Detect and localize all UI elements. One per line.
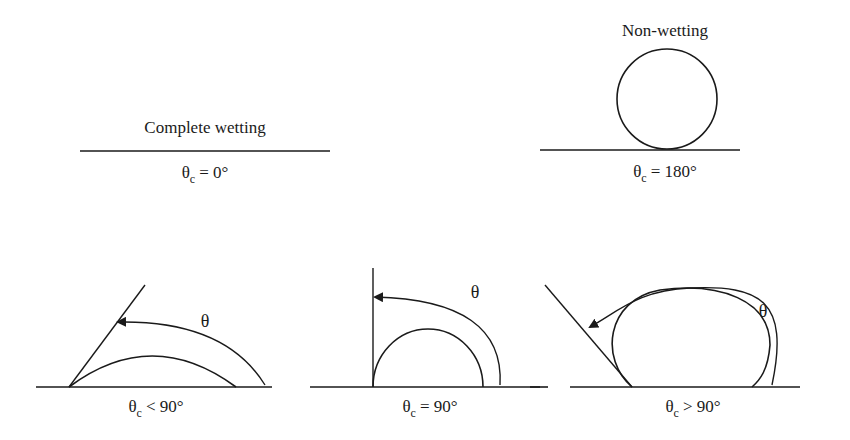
panel-non-wetting: Non-wetting θc= 180°: [540, 21, 740, 185]
panel-angle-less-than-90: θ θc< 90°: [36, 285, 272, 420]
tangent-line: [69, 285, 145, 387]
theta-label: θ: [759, 301, 768, 321]
angle-less-than-90-label: θc< 90°: [128, 397, 183, 420]
theta-label: θ: [201, 311, 210, 331]
panel-angle-greater-than-90: θ θc> 90°: [530, 285, 800, 420]
droplet-sphere: [617, 49, 717, 149]
non-wetting-title: Non-wetting: [622, 21, 708, 40]
droplet-profile: [612, 288, 770, 387]
angle-equal-90-label: θc= 90°: [402, 397, 457, 420]
complete-wetting-angle: θc= 0°: [182, 163, 229, 186]
complete-wetting-title: Complete wetting: [144, 118, 266, 137]
panel-angle-equal-90: θ θc= 90°: [310, 268, 540, 420]
droplet-profile: [69, 356, 236, 387]
angle-greater-than-90-label: θc> 90°: [665, 397, 720, 420]
droplet-profile: [373, 329, 483, 387]
non-wetting-angle: θc= 180°: [633, 162, 697, 185]
angle-arc-arrow: [118, 322, 265, 385]
panel-complete-wetting: Complete wetting θc= 0°: [80, 118, 330, 186]
contact-angle-diagram: Complete wetting θc= 0° Non-wetting θc= …: [0, 0, 850, 440]
theta-label: θ: [471, 282, 480, 302]
